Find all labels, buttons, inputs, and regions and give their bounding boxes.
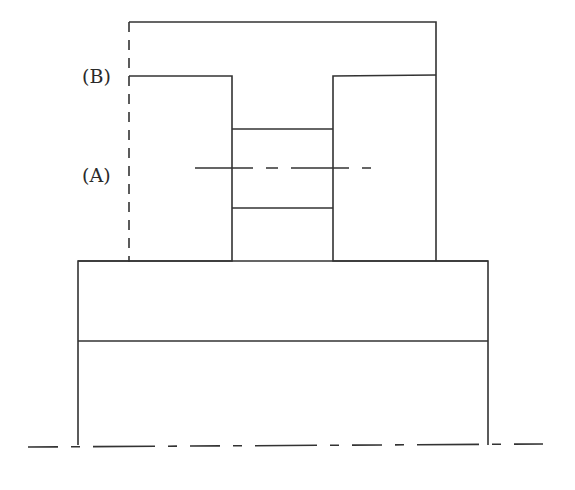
right-column <box>333 75 488 261</box>
base-plate <box>78 261 488 445</box>
diagram-canvas: (B) (A) <box>0 0 575 490</box>
label-a: (A) <box>82 164 111 186</box>
label-b: (B) <box>82 65 111 87</box>
outer-top-frame <box>129 22 436 261</box>
bottom-symmetry-axis <box>28 444 543 447</box>
